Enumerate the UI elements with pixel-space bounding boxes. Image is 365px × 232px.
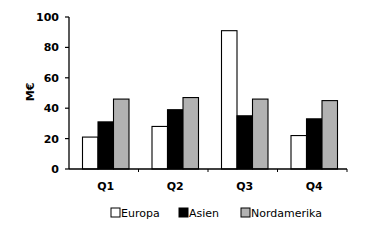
bars [83, 31, 338, 169]
legend-item-nordamerika: Nordamerika [241, 207, 322, 220]
bar-asien-q2 [168, 110, 184, 169]
y-tick-label: 60 [44, 72, 60, 85]
bar-europa-q3 [222, 31, 238, 169]
legend-item-asien: Asien [179, 207, 219, 220]
legend-label: Nordamerika [251, 207, 322, 220]
y-tick-label: 40 [44, 102, 60, 115]
x-axis-ticks: Q1Q2Q3Q4 [97, 169, 347, 193]
legend-swatch [111, 208, 120, 217]
bar-asien-q4 [307, 119, 323, 169]
legend-item-europa: Europa [111, 207, 160, 220]
x-tick-label: Q2 [167, 180, 184, 193]
bar-nordamerika-q4 [322, 101, 338, 169]
legend-swatch [179, 208, 188, 217]
x-tick-label: Q1 [97, 180, 114, 193]
y-tick-label: 100 [36, 11, 59, 24]
bar-nordamerika-q2 [183, 98, 199, 169]
legend-label: Asien [189, 207, 219, 220]
bar-asien-q3 [237, 116, 253, 169]
x-tick-label: Q3 [236, 180, 253, 193]
legend-swatch [241, 208, 250, 217]
y-tick-label: 20 [44, 133, 60, 146]
bar-asien-q1 [98, 122, 114, 169]
bar-nordamerika-q3 [253, 99, 269, 169]
bar-europa-q4 [291, 136, 307, 169]
bar-europa-q1 [83, 137, 99, 169]
bar-nordamerika-q1 [114, 99, 130, 169]
y-axis-ticks: 020406080100 [36, 11, 69, 176]
y-axis-label: M€ [24, 83, 37, 102]
y-tick-label: 80 [44, 41, 60, 54]
y-tick-label: 0 [51, 163, 59, 176]
bar-europa-q2 [152, 126, 168, 169]
legend-label: Europa [121, 207, 160, 220]
legend: EuropaAsienNordamerika [111, 207, 322, 220]
x-tick-label: Q4 [306, 180, 323, 193]
bar-chart: 020406080100 M€ Q1Q2Q3Q4 EuropaAsienNord… [0, 0, 365, 232]
